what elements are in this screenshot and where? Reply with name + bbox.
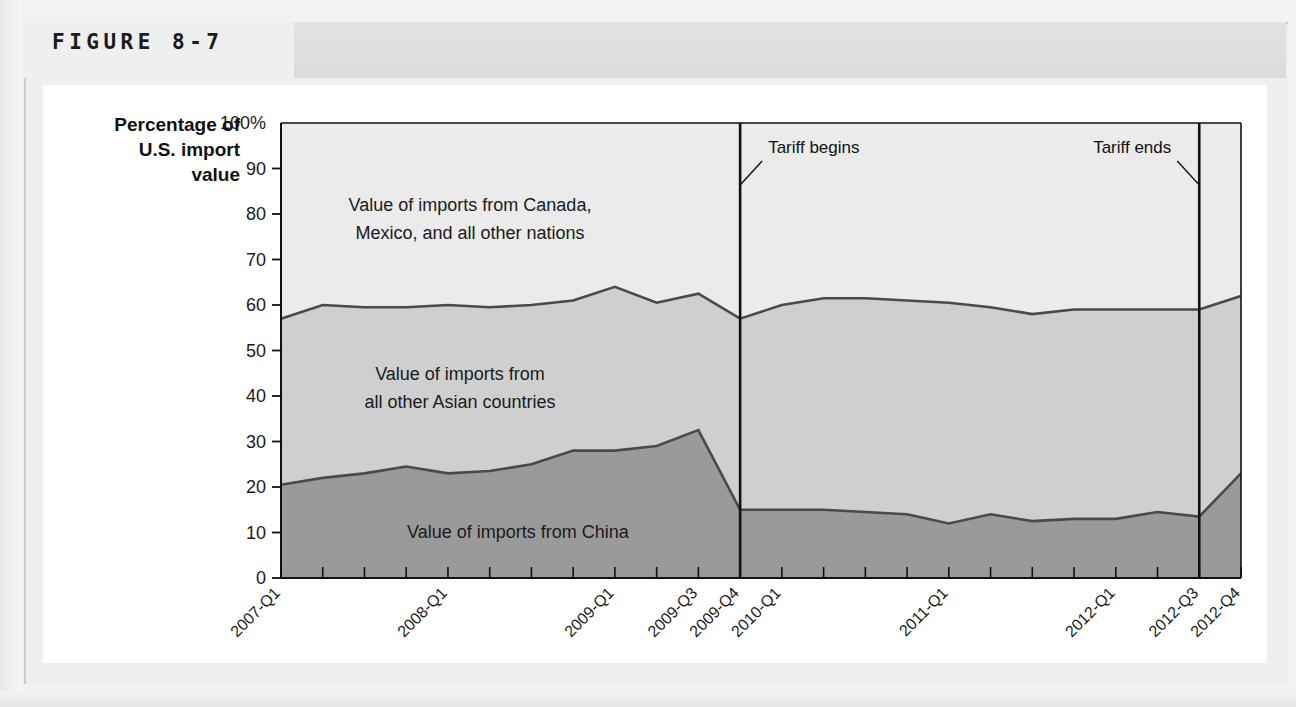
page-bottom-edge	[0, 691, 1296, 707]
y-axis-title-line-2: U.S. import	[60, 137, 240, 162]
y-axis-title: Percentage of U.S. import value	[60, 112, 240, 187]
figure-root: FIGURE 8-7 Percentage of U.S. import val…	[0, 0, 1296, 707]
y-axis-title-line-1: Percentage of	[60, 112, 240, 137]
y-axis-title-line-3: value	[60, 162, 240, 187]
figure-title: FIGURE 8-7	[52, 30, 223, 54]
page-left-edge	[0, 0, 22, 707]
